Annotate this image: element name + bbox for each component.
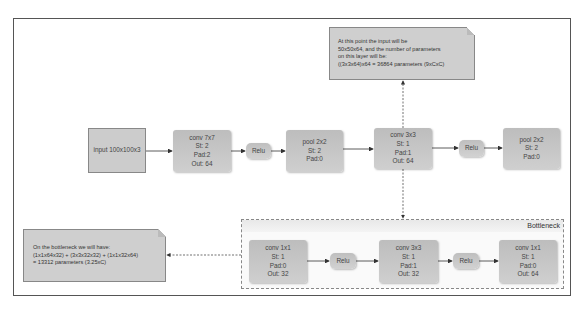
top-note-line-4: ((3x3x64)x64 = 36864 parameters (9xCxC) <box>338 61 466 69</box>
bconv3-out: Out: 32 <box>398 270 419 279</box>
pool-node-2: pool 2x2 St: 2 Pad:0 <box>503 128 560 169</box>
bottleneck-relu-node-b: Relu <box>453 253 479 269</box>
bconv1-pad: Pad:0 <box>270 262 287 271</box>
bottleneck-note: On the bottleneck we will have: (1x1x64x… <box>23 229 166 282</box>
bottleneck-conv3x3-node: conv 3x3 St: 1 Pad:1 Out: 32 <box>379 240 438 283</box>
bottleneck-conv1x1-node-a: conv 1x1 St: 1 Pad:0 Out: 32 <box>249 240 307 283</box>
conv3x3-title: conv 3x3 <box>390 131 416 140</box>
relu-node-1: Relu <box>246 143 271 159</box>
bconv1-stride: St: 1 <box>271 253 284 262</box>
bconv3-stride: St: 1 <box>402 253 415 262</box>
relu-label: Relu <box>459 257 472 266</box>
conv7x7-stride: St: 2 <box>195 142 208 151</box>
input-label: input 100x100x3 <box>94 146 141 155</box>
top-note: At this point the input will be 50x50x64… <box>329 27 475 80</box>
relu-label: Relu <box>336 257 349 266</box>
top-note-line-3: on this layer will be: <box>338 53 466 61</box>
conv3x3-out: Out: 64 <box>393 157 414 166</box>
bottleneck-relu-node-a: Relu <box>330 253 356 269</box>
pool1-title: pool 2x2 <box>302 138 326 147</box>
note-fold-icon <box>158 229 166 237</box>
conv3x3-node: conv 3x3 St: 1 Pad:1 Out: 64 <box>374 128 432 169</box>
bconv1-title: conv 1x1 <box>265 244 291 253</box>
pool2-pad: Pad:0 <box>523 153 540 162</box>
bottleneck-header <box>242 220 563 232</box>
pool2-stride: St: 2 <box>525 144 538 153</box>
relu-label: Relu <box>465 144 478 153</box>
pool1-pad: Pad:0 <box>306 155 323 164</box>
pool-node-1: pool 2x2 St: 2 Pad:0 <box>286 130 343 172</box>
bconv1b-pad: Pad:0 <box>520 262 537 271</box>
relu-label: Relu <box>252 147 265 156</box>
bconv1b-stride: St: 1 <box>521 253 534 262</box>
conv3x3-pad: Pad:1 <box>395 149 412 158</box>
bottleneck-title: Bottleneck <box>527 222 560 229</box>
conv7x7-title: conv 7x7 <box>189 134 215 143</box>
bconv3-title: conv 3x3 <box>396 244 422 253</box>
bconv1b-out: Out: 64 <box>518 270 539 279</box>
bottleneck-conv1x1-node-b: conv 1x1 St: 1 Pad:0 Out: 64 <box>499 240 557 283</box>
top-note-line-2: 50x50x64, and the number of parameters <box>338 46 466 54</box>
bconv1b-title: conv 1x1 <box>515 244 541 253</box>
conv7x7-pad: Pad:2 <box>194 151 211 160</box>
bconv3-pad: Pad:1 <box>400 262 417 271</box>
bottleneck-note-line-2: (1x1x64x32) + (3x3x32x32) + (1x1x32x64) <box>33 252 157 260</box>
input-node: input 100x100x3 <box>88 128 146 173</box>
conv3x3-stride: St: 1 <box>396 140 409 149</box>
bconv1-out: Out: 32 <box>268 270 289 279</box>
bottleneck-note-line-3: = 13312 parameters (3.25xC) <box>33 259 157 267</box>
note-fold-icon <box>467 27 475 35</box>
pool2-title: pool 2x2 <box>519 136 543 145</box>
top-note-line-1: At this point the input will be <box>338 38 466 46</box>
bottleneck-note-line-1: On the bottleneck we will have: <box>33 244 157 252</box>
relu-node-2: Relu <box>459 140 484 157</box>
conv7x7-node: conv 7x7 St: 2 Pad:2 Out: 64 <box>173 130 231 172</box>
conv7x7-out: Out: 64 <box>192 160 213 169</box>
pool1-stride: St: 2 <box>308 147 321 156</box>
